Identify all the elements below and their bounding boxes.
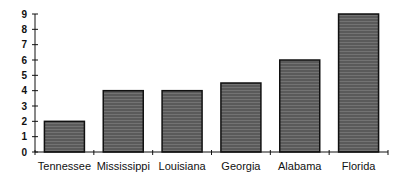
y-tick-label: 6	[21, 55, 27, 66]
bars	[44, 14, 378, 152]
x-category-label: Georgia	[221, 160, 261, 172]
x-category-label: Louisiana	[159, 160, 207, 172]
bar-louisiana	[162, 91, 202, 152]
x-category-label: Mississippi	[97, 160, 150, 172]
y-axis: 0123456789	[21, 9, 38, 158]
x-axis: TennesseeMississippiLouisianaGeorgiaAlab…	[35, 150, 388, 172]
bar-tennessee	[44, 121, 84, 152]
bar-florida	[339, 14, 379, 152]
y-tick-label: 7	[21, 39, 27, 50]
y-tick-label: 5	[21, 70, 27, 81]
x-category-label: Florida	[342, 160, 377, 172]
bar-chart: 0123456789 TennesseeMississippiLouisiana…	[0, 0, 408, 180]
y-tick-label: 1	[21, 131, 27, 142]
y-tick-label: 2	[21, 116, 27, 127]
y-tick-label: 9	[21, 9, 27, 20]
y-tick-label: 8	[21, 24, 27, 35]
bar-mississippi	[103, 91, 143, 152]
y-tick-label: 3	[21, 101, 27, 112]
x-category-label: Alabama	[278, 160, 322, 172]
bar-alabama	[280, 60, 320, 152]
x-category-label: Tennessee	[38, 160, 91, 172]
y-tick-label: 0	[21, 147, 27, 158]
y-tick-label: 4	[21, 85, 27, 96]
bar-georgia	[221, 83, 261, 152]
